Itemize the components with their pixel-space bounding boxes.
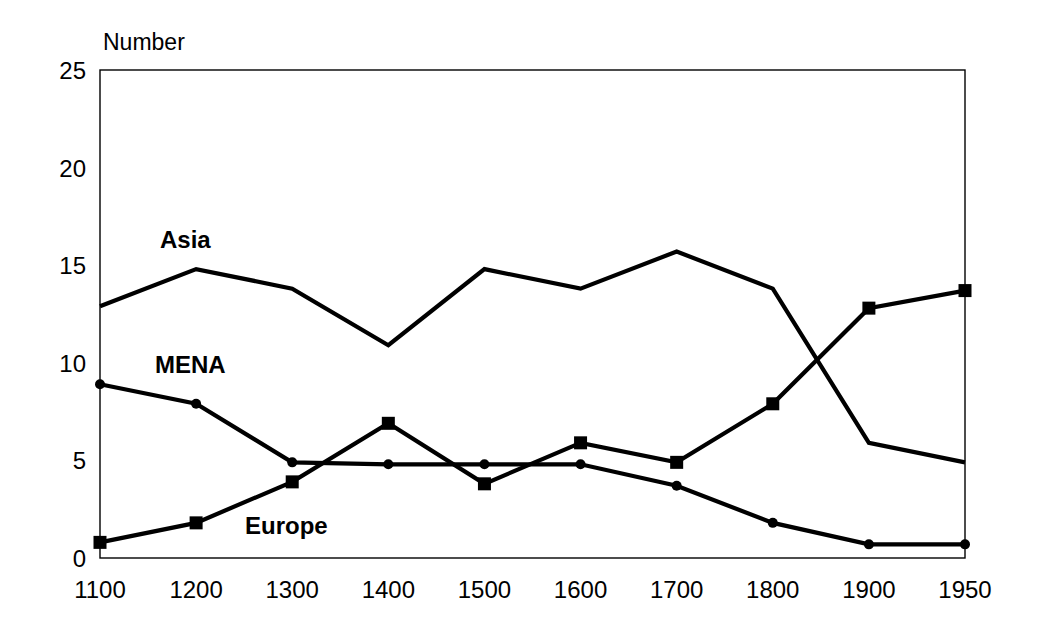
y-tick-label: 25	[59, 57, 86, 84]
data-point-europe	[862, 302, 875, 315]
data-point-europe	[478, 477, 491, 490]
data-point-mena	[383, 459, 393, 469]
series-line-europe	[100, 291, 965, 543]
data-point-europe	[670, 456, 683, 469]
data-point-europe	[94, 536, 107, 549]
x-tick-label: 1700	[650, 576, 703, 603]
data-point-europe	[766, 397, 779, 410]
x-tick-label: 1950	[938, 576, 991, 603]
data-point-mena	[191, 399, 201, 409]
series-line-asia	[100, 252, 965, 463]
y-tick-label: 5	[73, 447, 86, 474]
data-point-mena	[768, 518, 778, 528]
series-label-asia: Asia	[160, 226, 211, 253]
series-label-mena: MENA	[155, 351, 226, 378]
y-axis-title: Number	[103, 29, 185, 55]
y-tick-label: 10	[59, 350, 86, 377]
y-tick-label: 20	[59, 155, 86, 182]
series-label-europe: Europe	[245, 512, 328, 539]
x-tick-label: 1400	[362, 576, 415, 603]
x-tick-label: 1900	[842, 576, 895, 603]
series-group	[94, 252, 972, 550]
y-axis-ticks: 0510152025	[59, 57, 86, 572]
x-tick-label: 1500	[458, 576, 511, 603]
data-point-mena	[672, 481, 682, 491]
x-tick-label: 1300	[266, 576, 319, 603]
line-chart: Number 0510152025 1100120013001400150016…	[0, 0, 1037, 641]
data-point-europe	[574, 436, 587, 449]
data-point-mena	[864, 539, 874, 549]
data-point-mena	[960, 539, 970, 549]
x-tick-label: 1600	[554, 576, 607, 603]
y-tick-label: 0	[73, 545, 86, 572]
data-point-europe	[190, 516, 203, 529]
data-point-europe	[959, 284, 972, 297]
data-point-mena	[95, 379, 105, 389]
plot-area-frame	[100, 70, 965, 558]
x-tick-label: 1200	[169, 576, 222, 603]
y-tick-label: 15	[59, 252, 86, 279]
data-point-europe	[382, 417, 395, 430]
x-tick-label: 1800	[746, 576, 799, 603]
data-point-mena	[479, 459, 489, 469]
data-point-mena	[576, 459, 586, 469]
data-point-mena	[287, 457, 297, 467]
chart-container: Number 0510152025 1100120013001400150016…	[0, 0, 1037, 641]
x-tick-label: 1100	[74, 576, 126, 603]
x-axis-ticks: 1100120013001400150016001700180019001950	[74, 576, 992, 603]
data-point-europe	[286, 475, 299, 488]
